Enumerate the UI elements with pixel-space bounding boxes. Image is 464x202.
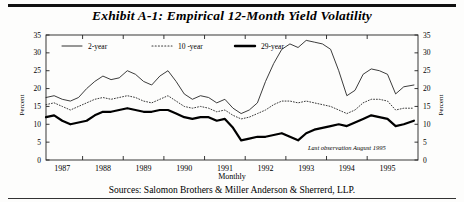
line-chart-svg: 05101520253035 05101520253035 1987198819…: [0, 0, 464, 182]
y-axis-left-label: Percent: [18, 94, 26, 115]
series-line-10-year: [46, 96, 414, 119]
y-tick-label-right: 20: [423, 84, 431, 93]
x-tick-label: 1989: [136, 164, 152, 173]
source-note: Sources: Salomon Brothers & Miller Ander…: [0, 185, 464, 195]
y-tick-label-left: 20: [34, 84, 42, 93]
y-tick-label-right: 10: [423, 120, 431, 129]
y-tick-label-right: 5: [423, 138, 427, 147]
x-tick-label: 1988: [95, 164, 111, 173]
y-tick-label-left: 10: [34, 120, 42, 129]
legend-label: 10 -year: [178, 42, 203, 51]
data-series-group: [46, 40, 414, 140]
y-axis-right-label: Percent: [437, 94, 445, 115]
chart-legend: 2-year10 -year29-year: [62, 42, 284, 51]
y-tick-label-right: 25: [423, 66, 431, 75]
y-tick-label-right: 15: [423, 102, 431, 111]
x-tick-label: 1993: [298, 164, 314, 173]
chart-figure: Exhibit A-1: Empirical 12-Month Yield Vo…: [0, 0, 464, 202]
x-tick-label: 1995: [380, 164, 396, 173]
series-line-2-year: [46, 40, 414, 113]
x-tick-label: 1994: [339, 164, 355, 173]
y-tick-label-right: 35: [423, 31, 431, 40]
y-tick-label-right: 0: [423, 156, 427, 165]
x-axis-label: Monthly: [218, 172, 246, 181]
y-tick-label-left: 35: [34, 31, 42, 40]
y-tick-label-right: 30: [423, 48, 431, 57]
bottom-rule: [8, 198, 456, 199]
x-tick-label: 1987: [54, 164, 70, 173]
x-tick-label: 1992: [258, 164, 274, 173]
y-tick-label-left: 15: [34, 102, 42, 111]
y-tick-label-left: 5: [37, 138, 41, 147]
y-axis-right-ticks: 05101520253035: [415, 31, 431, 165]
x-axis-ticks: 198719881989199019911992199319941995: [54, 35, 395, 173]
legend-label: 29-year: [261, 42, 284, 51]
legend-label: 2-year: [88, 42, 108, 51]
plot-area-wrapper: 05101520253035 05101520253035 1987198819…: [0, 0, 464, 202]
y-tick-label-left: 30: [34, 48, 42, 57]
y-tick-label-left: 0: [37, 156, 41, 165]
y-tick-label-left: 25: [34, 66, 42, 75]
last-observation-annotation: Last observation August 1995: [307, 144, 386, 151]
x-tick-label: 1990: [176, 164, 192, 173]
